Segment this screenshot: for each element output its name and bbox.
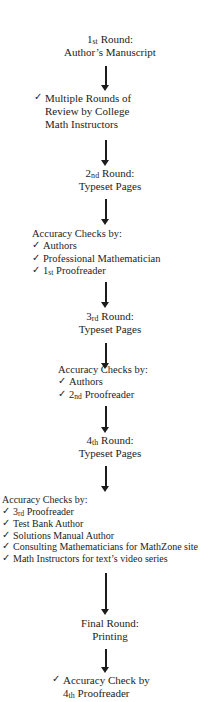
node-round-2-line-2: Typeset Pages	[0, 180, 220, 193]
checklist-item: ✓ Accuracy Check by	[52, 674, 220, 687]
check-icon: ✓	[32, 265, 40, 276]
check-icon: ✓	[58, 376, 66, 387]
arrow-4	[101, 282, 110, 308]
node-round-2: 2nd Round: Typeset Pages	[0, 167, 220, 193]
node-round-4-line-1: 4th Round:	[0, 434, 220, 447]
node-final-accuracy-check: ✓ Accuracy Check by 4th Proofreader	[52, 674, 220, 700]
node-round-4-line-2: Typeset Pages	[0, 447, 220, 460]
node-accuracy-checks-3: Accuracy Checks by: ✓ 3rd Proofreader ✓ …	[2, 494, 220, 565]
checklist-item: ✓ Solutions Manual Author	[2, 530, 220, 542]
arrow-7	[101, 466, 110, 492]
checklist-item: ✓ Math Instructors for text’s video seri…	[2, 553, 220, 565]
node-round-1-line-1: 1st Round:	[0, 33, 220, 46]
arrow-1	[101, 66, 110, 91]
checklist-item-continuation: Review by College	[34, 105, 220, 118]
checklist-item-continuation: 4th Proofreader	[52, 687, 220, 700]
check-icon: ✓	[2, 541, 10, 552]
check-icon: ✓	[32, 240, 40, 251]
process-flowchart: 1st Round: Author’s Manuscript ✓ Multipl…	[0, 0, 220, 702]
node-round-2-line-1: 2nd Round:	[0, 167, 220, 180]
checklist-item: ✓ 2nd Proofreader	[58, 389, 220, 402]
node-round-1-line-2: Author’s Manuscript	[0, 46, 220, 59]
checklist-item: ✓ Authors	[58, 376, 220, 388]
arrow-9	[101, 649, 110, 673]
node-accuracy-checks-1: Accuracy Checks by: ✓ Authors ✓ Professi…	[32, 228, 220, 278]
node-round-3-line-1: 3rd Round:	[0, 310, 220, 323]
checklist-item: ✓ Consulting Mathematicians for MathZone…	[2, 541, 220, 553]
accuracy-checks-heading: Accuracy Checks by:	[2, 494, 220, 506]
check-icon: ✓	[2, 553, 10, 564]
node-round-3: 3rd Round: Typeset Pages	[0, 310, 220, 336]
check-icon: ✓	[2, 506, 10, 517]
arrow-2	[101, 140, 110, 166]
node-round-3-line-2: Typeset Pages	[0, 323, 220, 336]
accuracy-checks-heading: Accuracy Checks by:	[58, 364, 220, 376]
node-multiple-rounds-review: ✓ Multiple Rounds of Review by College M…	[34, 92, 220, 131]
check-icon: ✓	[2, 530, 10, 541]
checklist-item-continuation: Math Instructors	[34, 118, 220, 131]
check-icon: ✓	[32, 253, 40, 264]
check-icon: ✓	[52, 674, 60, 685]
accuracy-checks-heading: Accuracy Checks by:	[32, 228, 220, 240]
node-final-round-line-1: Final Round:	[0, 617, 220, 630]
node-final-round-line-2: Printing	[0, 630, 220, 643]
node-final-round: Final Round: Printing	[0, 617, 220, 643]
node-round-1: 1st Round: Author’s Manuscript	[0, 33, 220, 59]
arrow-8	[101, 573, 110, 615]
check-icon: ✓	[58, 389, 66, 400]
check-icon: ✓	[2, 518, 10, 529]
checklist-item: ✓ 3rd Proofreader	[2, 506, 220, 518]
node-round-4: 4th Round: Typeset Pages	[0, 434, 220, 460]
checklist-item: ✓ Test Bank Author	[2, 518, 220, 530]
node-accuracy-checks-2: Accuracy Checks by: ✓ Authors ✓ 2nd Proo…	[58, 364, 220, 401]
checklist-item: ✓ Multiple Rounds of	[34, 92, 220, 105]
checklist-item: ✓ Professional Mathematician	[32, 253, 220, 265]
arrow-6	[101, 406, 110, 433]
check-icon: ✓	[34, 92, 42, 103]
checklist-item: ✓ Authors	[32, 240, 220, 252]
arrow-3	[101, 199, 110, 225]
checklist-item: ✓ 1st Proofreader	[32, 265, 220, 278]
